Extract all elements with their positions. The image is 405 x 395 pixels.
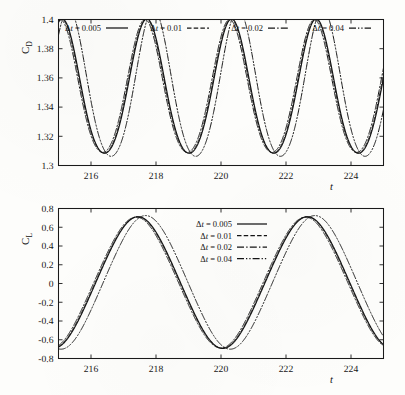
x-tick-label: 218 bbox=[149, 171, 164, 182]
cl-plot-svg: -0.8-0.6-0.4-0.200.20.40.60.8 2162182202… bbox=[0, 197, 405, 395]
legend-item: Δt = 0.005 bbox=[65, 23, 128, 33]
curve-dashed bbox=[59, 19, 384, 153]
figure-container: 1.31.321.341.361.381.4 216218220222224 C… bbox=[0, 0, 405, 395]
cd-y-axis-label-main: C bbox=[19, 47, 31, 54]
y-tick-label: -0.4 bbox=[38, 316, 53, 327]
legend-item: Δt = 0.01 bbox=[150, 23, 209, 33]
cl-y-axis-label-sub: L bbox=[25, 232, 34, 237]
cd-y-axis-label-sub: D bbox=[25, 40, 34, 46]
cd-legend: Δt = 0.005Δt = 0.01Δt = 0.02Δt = 0.04 bbox=[65, 23, 371, 33]
legend-label: Δt = 0.01 bbox=[200, 231, 232, 241]
x-tick-label: 218 bbox=[149, 364, 164, 375]
chart-panel-cd: 1.31.321.341.361.381.4 216218220222224 C… bbox=[0, 0, 405, 198]
y-tick-label: 1.38 bbox=[37, 44, 54, 55]
legend-label: Δt = 0.01 bbox=[150, 23, 182, 33]
cl-y-ticklabels: -0.8-0.6-0.4-0.200.20.40.60.8 bbox=[38, 204, 53, 365]
cd-y-axis-label: C D bbox=[19, 40, 34, 54]
chart-panel-cl: -0.8-0.6-0.4-0.200.20.40.60.8 2162182202… bbox=[0, 197, 405, 395]
legend-item: Δt = 0.005 bbox=[196, 219, 267, 229]
y-tick-label: 0.8 bbox=[42, 204, 54, 215]
legend-item: Δt = 0.04 bbox=[312, 23, 371, 33]
cl-x-axis-label: t bbox=[330, 374, 334, 385]
legend-label: Δt = 0.02 bbox=[231, 23, 263, 33]
y-tick-label: 1.34 bbox=[37, 102, 54, 113]
legend-label: Δt = 0.04 bbox=[312, 23, 345, 33]
cd-y-ticklabels: 1.31.321.341.361.381.4 bbox=[37, 15, 54, 172]
y-tick-label: 1.32 bbox=[37, 132, 54, 143]
y-tick-label: 0.4 bbox=[42, 241, 54, 252]
x-tick-label: 220 bbox=[214, 171, 229, 182]
x-tick-label: 216 bbox=[84, 171, 99, 182]
legend-item: Δt = 0.04 bbox=[200, 254, 267, 264]
y-tick-label: -0.6 bbox=[38, 335, 53, 346]
x-tick-label: 222 bbox=[279, 171, 294, 182]
cd-x-ticklabels: 216218220222224 bbox=[84, 171, 359, 182]
cd-x-axis-label: t bbox=[330, 181, 334, 192]
y-tick-label: 0 bbox=[49, 279, 54, 290]
cd-plot-svg: 1.31.321.341.361.381.4 216218220222224 C… bbox=[0, 0, 405, 198]
x-tick-label: 224 bbox=[344, 171, 359, 182]
y-tick-label: 0.6 bbox=[42, 223, 54, 234]
legend-item: Δt = 0.02 bbox=[231, 23, 290, 33]
legend-item: Δt = 0.01 bbox=[200, 231, 267, 241]
x-tick-label: 222 bbox=[279, 364, 294, 375]
x-tick-label: 216 bbox=[84, 364, 99, 375]
legend-label: Δt = 0.04 bbox=[200, 254, 233, 264]
y-tick-label: 1.36 bbox=[37, 73, 54, 84]
x-tick-label: 224 bbox=[344, 364, 359, 375]
y-tick-label: 1.3 bbox=[42, 161, 54, 172]
legend-label: Δt = 0.02 bbox=[200, 242, 232, 252]
cl-y-axis-label: C L bbox=[19, 232, 34, 245]
x-tick-label: 220 bbox=[214, 364, 229, 375]
cl-y-axis-label-main: C bbox=[19, 238, 31, 245]
legend-item: Δt = 0.02 bbox=[200, 242, 267, 252]
cl-legend: Δt = 0.005Δt = 0.01Δt = 0.02Δt = 0.04 bbox=[196, 219, 267, 264]
legend-label: Δt = 0.005 bbox=[65, 23, 101, 33]
y-tick-label: -0.2 bbox=[38, 298, 53, 309]
legend-label: Δt = 0.005 bbox=[196, 219, 232, 229]
cl-x-ticklabels: 216218220222224 bbox=[84, 364, 359, 375]
y-tick-label: -0.8 bbox=[38, 354, 53, 365]
y-tick-label: 1.4 bbox=[42, 15, 54, 26]
y-tick-label: 0.2 bbox=[42, 260, 54, 271]
